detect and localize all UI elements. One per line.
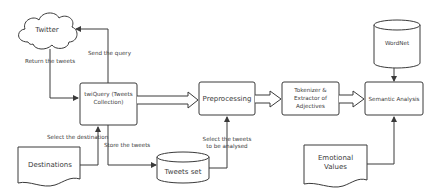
edge-store-tweets: Store the tweets	[104, 125, 156, 165]
semantic-analysis-box: Semantic Analysis	[365, 82, 423, 115]
select-tweets-label-1: Select the tweets	[203, 136, 252, 142]
twitter-label: Twitter	[34, 26, 59, 34]
hollow-arrow-3	[339, 91, 364, 107]
wordnet-database: WordNet	[374, 20, 420, 68]
emotional-values-document: Emotional Values	[304, 145, 367, 187]
destinations-label: Destinations	[28, 161, 72, 169]
wordnet-label: WordNet	[385, 40, 410, 46]
tweets-set-label: Tweets set	[164, 168, 202, 176]
edge-send-query: Send the query	[76, 29, 132, 83]
emotional-label-1: Emotional	[318, 154, 353, 162]
send-query-label: Send the query	[88, 50, 132, 57]
twiquery-box: twiQuery (Tweets Collection)	[80, 83, 137, 125]
select-destination-label: Select the destination	[47, 134, 109, 140]
emotional-label-2: Values	[324, 163, 347, 171]
destinations-document: Destinations	[18, 147, 80, 186]
edge-return-tweets: Return the tweets	[25, 49, 78, 98]
tokenizer-label-3: Adjectives	[296, 103, 325, 110]
tokenizer-label-2: Extractor of	[294, 95, 328, 101]
semantic-label: Semantic Analysis	[368, 96, 419, 103]
twiquery-label-2: Collection)	[94, 99, 124, 105]
edge-emotional-semantic	[367, 117, 394, 164]
hollow-arrow-1	[137, 92, 198, 108]
return-tweets-label: Return the tweets	[25, 58, 75, 64]
flow-diagram: Twitter Send the query Return the tweets…	[0, 0, 435, 195]
twitter-cloud: Twitter	[19, 13, 77, 49]
tokenizer-label-1: Tokenizer &	[293, 87, 327, 93]
preprocessing-label: Preprocessing	[203, 95, 252, 103]
store-tweets-label: Store the tweets	[104, 142, 150, 148]
edge-select-tweets: Select the tweets to be analysed	[203, 117, 252, 168]
tokenizer-box: Tokenizer & Extractor of Adjectives	[282, 82, 339, 115]
twiquery-label-1: twiQuery (Tweets	[84, 91, 132, 98]
preprocessing-box: Preprocessing	[199, 82, 255, 115]
hollow-arrow-2	[255, 91, 281, 107]
select-tweets-label-2: to be analysed	[206, 143, 248, 150]
tweets-set-database: Tweets set	[157, 152, 209, 183]
